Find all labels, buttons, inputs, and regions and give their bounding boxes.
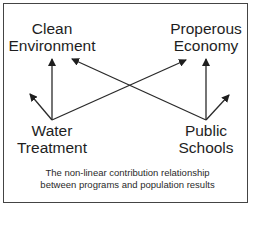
arrow-schools-to-other xyxy=(206,95,229,120)
caption-line2: between programs and population results xyxy=(0,179,255,191)
diagram-caption: The non-linear contribution relationship… xyxy=(0,167,255,191)
caption-line1: The non-linear contribution relationship xyxy=(0,167,255,179)
arrow-schools-to-clean xyxy=(72,59,206,120)
arrow-water-to-economy xyxy=(52,60,186,120)
arrow-water-to-other xyxy=(30,94,52,120)
